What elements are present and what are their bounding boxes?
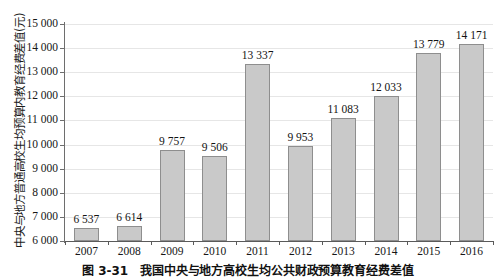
x-tick-mark <box>151 241 152 245</box>
y-tick-label: 14 000 <box>0 42 58 54</box>
y-tick-mark <box>60 169 65 170</box>
gridline <box>65 24 493 25</box>
bar <box>288 146 313 241</box>
x-tick-mark <box>65 241 66 245</box>
bar <box>117 226 142 241</box>
bar <box>331 118 356 241</box>
y-tick-mark <box>60 193 65 194</box>
figure-caption: 图 3-31我国中央与地方高校生均公共财政预算教育经费差值 <box>0 261 496 278</box>
x-tick-mark <box>108 241 109 245</box>
y-tick-label: 7 000 <box>0 211 58 223</box>
y-tick-label: 8 000 <box>0 187 58 199</box>
bar <box>459 44 484 241</box>
y-tick-mark <box>60 24 65 25</box>
y-tick-label: 9 000 <box>0 163 58 175</box>
bar <box>374 96 399 241</box>
y-tick-mark <box>60 120 65 121</box>
x-tick-mark <box>365 241 366 245</box>
bar-value-label: 9 506 <box>185 142 245 154</box>
y-tick-label: 6 000 <box>0 235 58 247</box>
figure-number: 图 3-31 <box>82 264 128 278</box>
bar-value-label: 14 171 <box>442 30 496 42</box>
x-tick-label: 2016 <box>447 246 496 258</box>
y-tick-label: 10 000 <box>0 139 58 151</box>
x-tick-mark <box>493 241 494 245</box>
bar-value-label: 12 033 <box>356 82 416 94</box>
bar <box>160 150 185 241</box>
y-tick-label: 13 000 <box>0 66 58 78</box>
bar <box>416 53 441 241</box>
bar-value-label: 6 614 <box>99 212 159 224</box>
y-tick-mark <box>60 72 65 73</box>
bar <box>202 156 227 241</box>
x-tick-mark <box>322 241 323 245</box>
y-tick-label: 12 000 <box>0 90 58 102</box>
bar-value-label: 13 337 <box>228 50 288 62</box>
bar-value-label: 11 083 <box>313 104 373 116</box>
y-tick-label: 11 000 <box>0 114 58 126</box>
y-tick-label: 15 000 <box>0 18 58 30</box>
x-tick-mark <box>450 241 451 245</box>
y-tick-mark <box>60 145 65 146</box>
x-tick-mark <box>279 241 280 245</box>
x-tick-mark <box>236 241 237 245</box>
bar <box>245 64 270 241</box>
bar <box>74 228 99 241</box>
figure-caption-text: 我国中央与地方高校生均公共财政预算教育经费差值 <box>140 264 414 278</box>
y-tick-mark <box>60 96 65 97</box>
y-tick-mark <box>60 48 65 49</box>
x-tick-mark <box>193 241 194 245</box>
bar-value-label: 9 953 <box>270 132 330 144</box>
x-tick-mark <box>407 241 408 245</box>
